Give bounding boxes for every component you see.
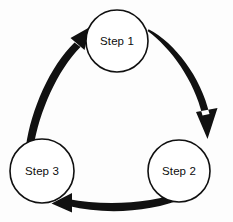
node-step-3[interactable]: Step 3 — [10, 139, 74, 203]
node-step-1[interactable]: Step 1 — [86, 10, 148, 72]
cycle-diagram-svg: Step 1 Step 2 Step 3 — [0, 0, 233, 222]
cycle-diagram: Step 1 Step 2 Step 3 — [0, 0, 233, 222]
arrow-step1-to-step2 — [148, 29, 218, 139]
step-1-label: Step 1 — [100, 35, 134, 47]
arrow-step3-to-step1 — [26, 27, 90, 148]
step-3-label: Step 3 — [25, 165, 59, 177]
step-2-label: Step 2 — [162, 165, 196, 177]
node-step-2[interactable]: Step 2 — [148, 140, 210, 202]
